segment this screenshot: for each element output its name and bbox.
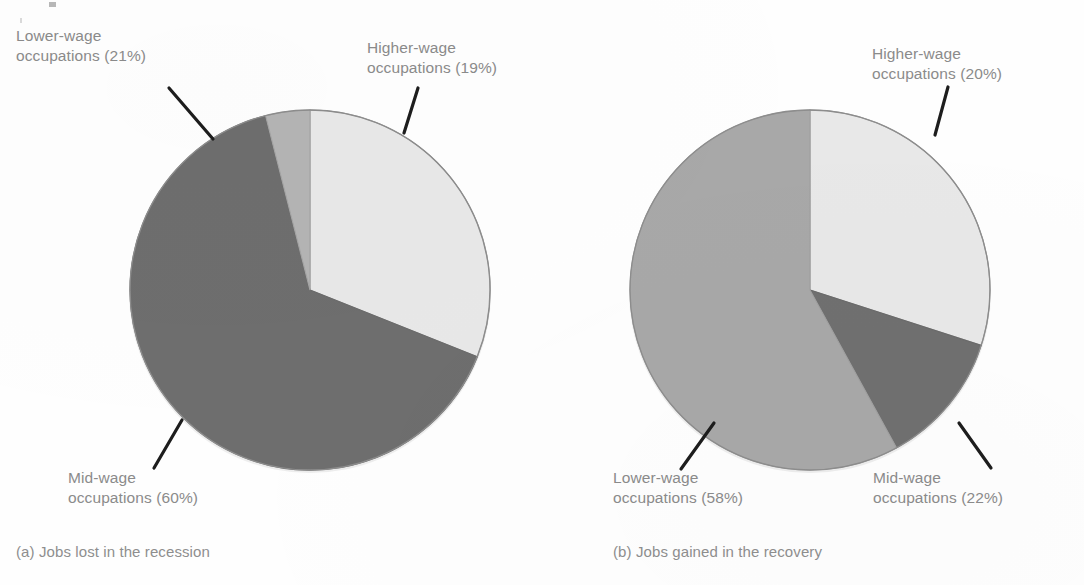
pie-b-caption: (b) Jobs gained in the recovery (613, 543, 822, 561)
pie-a-caption: (a) Jobs lost in the recession (16, 543, 210, 561)
leader-line-a-lower-wage (169, 88, 213, 139)
figure-root: Lower-wage occupations (21%) Higher-wage… (0, 0, 1084, 585)
pie-a-label-higher-wage: Higher-wage occupations (19%) (367, 38, 607, 77)
pie-a-label-lower-wage: Lower-wage occupations (21%) (16, 26, 256, 65)
leader-line-b-higher-wage (935, 87, 948, 135)
leader-line-a-mid-wage (154, 420, 182, 468)
leader-line-a-higher-wage (404, 88, 418, 133)
pie-a-label-mid-wage: Mid-wage occupations (60%) (68, 468, 308, 507)
leader-line-b-mid-wage (959, 423, 991, 468)
pie-b-label-lower-wage: Lower-wage occupations (58%) (613, 468, 853, 507)
pie-chart-a (129, 88, 491, 473)
pie-chart-b (629, 87, 991, 473)
pie-b-label-mid-wage: Mid-wage occupations (22%) (873, 468, 1083, 507)
pie-b-label-higher-wage: Higher-wage occupations (20%) (872, 44, 1082, 83)
